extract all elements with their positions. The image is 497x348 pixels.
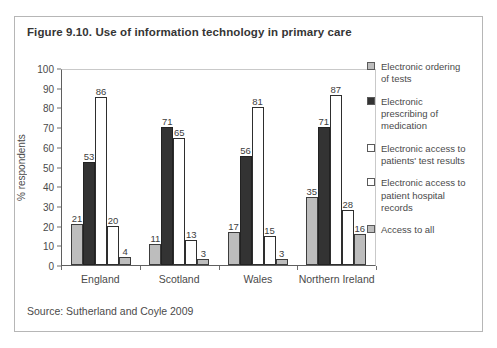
x-axis-labels: EnglandScotlandWalesNorthern Ireland	[61, 273, 376, 285]
bar: 11	[149, 244, 161, 265]
bar-value-label: 21	[72, 213, 83, 224]
x-category-label: England	[61, 273, 140, 285]
bar: 65	[173, 138, 185, 265]
x-category-label: Wales	[219, 273, 298, 285]
x-tick	[297, 266, 298, 270]
bar: 13	[185, 240, 197, 265]
y-tick-label: 20	[43, 221, 54, 232]
y-tick-label: 80	[43, 103, 54, 114]
bar: 71	[318, 127, 330, 265]
figure-box: Figure 9.10. Use of information technolo…	[14, 16, 483, 332]
legend-marker	[367, 144, 375, 152]
bar-value-label: 65	[174, 127, 185, 138]
bar: 17	[228, 232, 240, 265]
bar-value-label: 13	[186, 229, 197, 240]
bar-value-label: 81	[252, 96, 263, 107]
bar-value-label: 3	[201, 248, 206, 259]
y-axis-ticks: 0102030405060708090100	[15, 69, 61, 266]
legend-label: Access to all	[381, 224, 469, 236]
y-tick-label: 90	[43, 83, 54, 94]
y-tick-label: 70	[43, 123, 54, 134]
bar: 4	[119, 257, 131, 265]
bar-group: 215386204	[62, 70, 140, 265]
bar-value-label: 15	[264, 225, 275, 236]
legend-label: Electronic access to patient hospital re…	[381, 177, 469, 214]
bar: 3	[276, 259, 288, 265]
bar-value-label: 3	[279, 248, 284, 259]
x-tick	[61, 266, 62, 270]
bar: 15	[264, 236, 276, 265]
legend-marker	[367, 225, 375, 233]
y-tick: 10	[43, 241, 61, 252]
chart: % respondents 0102030405060708090100 215…	[15, 53, 484, 305]
bar-value-label: 4	[122, 246, 127, 257]
source-note: Source: Sutherland and Coyle 2009	[27, 305, 193, 317]
bar: 16	[354, 234, 366, 265]
x-axis-ticks	[61, 266, 376, 271]
legend-label: Electronic ordering of tests	[381, 61, 469, 86]
bar-value-label: 11	[150, 233, 160, 244]
bar: 86	[95, 97, 107, 265]
x-category-label: Scotland	[140, 273, 219, 285]
y-tick: 100	[37, 64, 61, 75]
legend-item: Access to all	[367, 224, 479, 236]
bar-value-label: 20	[108, 215, 119, 226]
bar-value-label: 35	[307, 186, 318, 197]
bar-value-label: 56	[240, 145, 251, 156]
y-tick: 80	[43, 103, 61, 114]
bar: 35	[306, 197, 318, 265]
bar: 81	[252, 107, 264, 265]
y-tick: 70	[43, 123, 61, 134]
y-tick: 50	[43, 162, 61, 173]
y-tick: 60	[43, 142, 61, 153]
y-tick-label: 30	[43, 201, 54, 212]
bar: 20	[107, 226, 119, 265]
bar-value-label: 86	[96, 86, 107, 97]
y-tick-label: 100	[37, 64, 54, 75]
figure-title: Figure 9.10. Use of information technolo…	[27, 26, 352, 38]
x-tick	[376, 266, 377, 270]
bar-group: 3571872816	[297, 70, 375, 265]
y-tick: 90	[43, 83, 61, 94]
bar: 56	[240, 156, 252, 265]
bar: 21	[71, 224, 83, 265]
bar-value-label: 87	[331, 84, 342, 95]
bar-value-label: 53	[84, 151, 95, 162]
y-tick: 40	[43, 182, 61, 193]
y-tick-label: 0	[48, 261, 54, 272]
legend: Electronic ordering of testsElectronic p…	[367, 61, 479, 247]
bar-value-label: 71	[162, 116, 173, 127]
legend-marker	[367, 62, 375, 70]
bar: 87	[330, 95, 342, 265]
bar-value-label: 28	[343, 199, 354, 210]
x-category-label: Northern Ireland	[297, 273, 376, 285]
bar-group: 175681153	[219, 70, 297, 265]
bar: 28	[342, 210, 354, 265]
legend-marker	[367, 178, 375, 186]
y-tick-label: 50	[43, 162, 54, 173]
bar: 71	[161, 127, 173, 265]
bar: 3	[197, 259, 209, 265]
x-tick	[219, 266, 220, 270]
bar-value-label: 71	[319, 116, 330, 127]
legend-item: Electronic prescribing of medication	[367, 96, 479, 133]
legend-item: Electronic access to patients' test resu…	[367, 143, 479, 168]
y-tick: 20	[43, 221, 61, 232]
y-tick-label: 40	[43, 182, 54, 193]
legend-label: Electronic access to patients' test resu…	[381, 143, 469, 168]
x-tick	[140, 266, 141, 270]
legend-marker	[367, 97, 375, 105]
y-tick-label: 60	[43, 142, 54, 153]
bar-group: 117165133	[140, 70, 218, 265]
bar: 53	[83, 162, 95, 265]
y-tick-label: 10	[43, 241, 54, 252]
legend-item: Electronic ordering of tests	[367, 61, 479, 86]
y-tick: 0	[48, 261, 61, 272]
legend-label: Electronic prescribing of medication	[381, 96, 469, 133]
y-tick: 30	[43, 201, 61, 212]
bar-value-label: 17	[228, 221, 239, 232]
legend-item: Electronic access to patient hospital re…	[367, 177, 479, 214]
plot-area: 2153862041171651331756811533571872816	[61, 69, 376, 266]
bar-value-label: 16	[355, 223, 366, 234]
